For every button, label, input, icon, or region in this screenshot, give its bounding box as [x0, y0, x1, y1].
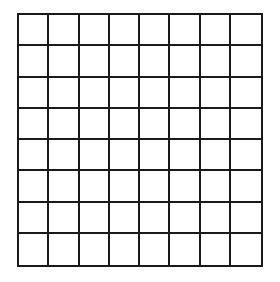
- grid-cell: [231, 109, 261, 140]
- grid-cell: [19, 109, 49, 140]
- grid-cell: [140, 171, 170, 202]
- grid-cell: [80, 15, 110, 46]
- grid-cell: [80, 140, 110, 171]
- grid-cell: [170, 234, 200, 265]
- grid-cell: [80, 234, 110, 265]
- grid-cell: [170, 109, 200, 140]
- grid-cell: [19, 234, 49, 265]
- grid-cell: [110, 15, 140, 46]
- grid-cell: [110, 234, 140, 265]
- grid-cell: [110, 203, 140, 234]
- grid-cell: [140, 203, 170, 234]
- grid-cell: [49, 171, 79, 202]
- grid-cell: [140, 15, 170, 46]
- grid-cell: [231, 78, 261, 109]
- grid-cell: [110, 171, 140, 202]
- grid-cell: [170, 140, 200, 171]
- grid-cell: [49, 109, 79, 140]
- grid-cell: [19, 46, 49, 77]
- grid-cell: [110, 78, 140, 109]
- grid-cell: [170, 46, 200, 77]
- grid-cell: [49, 46, 79, 77]
- grid-cell: [201, 109, 231, 140]
- grid-cell: [170, 15, 200, 46]
- grid-cell: [201, 78, 231, 109]
- grid-cell: [140, 234, 170, 265]
- grid-cell: [110, 109, 140, 140]
- grid-cell: [231, 203, 261, 234]
- grid-cell: [170, 171, 200, 202]
- grid-cell: [231, 171, 261, 202]
- grid-cell: [170, 78, 200, 109]
- grid-cell: [231, 234, 261, 265]
- grid-cell: [231, 46, 261, 77]
- grid-cell: [110, 46, 140, 77]
- grid-cell: [80, 171, 110, 202]
- grid-cell: [140, 140, 170, 171]
- grid-cell: [80, 78, 110, 109]
- grid-cell: [19, 171, 49, 202]
- grid-cell: [140, 78, 170, 109]
- grid-cell: [201, 171, 231, 202]
- grid-cell: [49, 78, 79, 109]
- grid-cell: [201, 234, 231, 265]
- grid-cell: [201, 15, 231, 46]
- empty-8x8-grid: [17, 13, 263, 267]
- grid-cell: [49, 203, 79, 234]
- grid-cell: [19, 140, 49, 171]
- grid-cell: [49, 234, 79, 265]
- grid-cell: [49, 15, 79, 46]
- grid-cell: [201, 203, 231, 234]
- grid-cell: [170, 203, 200, 234]
- grid-cell: [19, 203, 49, 234]
- grid-cell: [140, 109, 170, 140]
- grid-cell: [49, 140, 79, 171]
- grid-cell: [19, 78, 49, 109]
- grid-cell: [201, 46, 231, 77]
- grid-cell: [110, 140, 140, 171]
- grid-cell: [19, 15, 49, 46]
- grid-cell: [201, 140, 231, 171]
- grid-cell: [231, 140, 261, 171]
- grid-cell: [80, 203, 110, 234]
- grid-cell: [140, 46, 170, 77]
- grid-cell: [80, 109, 110, 140]
- grid-cell: [231, 15, 261, 46]
- grid-cell: [80, 46, 110, 77]
